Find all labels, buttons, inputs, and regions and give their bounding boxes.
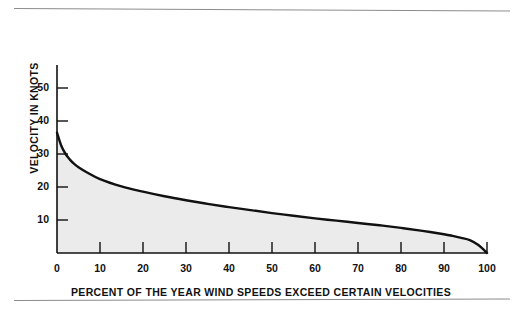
figure-root: 1020304050 0102030405060708090100 VELOCI…: [0, 0, 522, 310]
y-axis-title: VELOCITY IN KNOTS: [28, 48, 40, 188]
x-tick-label: 20: [128, 262, 158, 274]
x-tick-label: 50: [257, 262, 287, 274]
y-tick-label: 10: [23, 213, 49, 225]
x-tick-label: 100: [472, 262, 502, 274]
x-tick-label: 0: [42, 262, 72, 274]
area-fill-group: [57, 133, 487, 253]
series-area-fill: [57, 133, 487, 253]
x-tick-label: 10: [85, 262, 115, 274]
chart-plot-area: 1020304050 0102030405060708090100 VELOCI…: [0, 0, 522, 310]
x-tick-label: 30: [171, 262, 201, 274]
x-tick-label: 80: [386, 262, 416, 274]
x-tick-label: 70: [343, 262, 373, 274]
x-axis-title: PERCENT OF THE YEAR WIND SPEEDS EXCEED C…: [0, 286, 522, 298]
x-tick-label: 40: [214, 262, 244, 274]
x-tick-label: 90: [429, 262, 459, 274]
x-tick-label: 60: [300, 262, 330, 274]
